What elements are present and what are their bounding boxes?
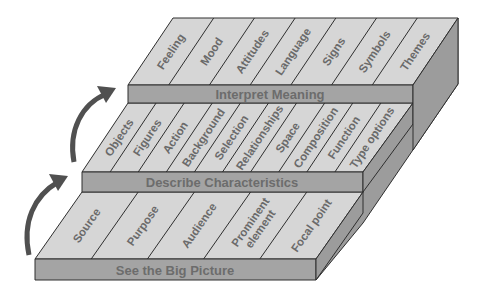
step-label-describe-characteristics: Describe Characteristics: [146, 175, 298, 190]
staircase-diagram: SourcePurposeAudienceProminentelementFoc…: [0, 0, 482, 299]
step-see-big-picture: SourcePurposeAudienceProminentelementFoc…: [35, 192, 363, 280]
step-describe-characteristics: ObjectsFiguresActionBackgroundSelectionR…: [82, 103, 413, 192]
step-label-interpret-meaning: Interpret Meaning: [215, 87, 324, 102]
step-label-see-big-picture: See the Big Picture: [116, 263, 234, 278]
